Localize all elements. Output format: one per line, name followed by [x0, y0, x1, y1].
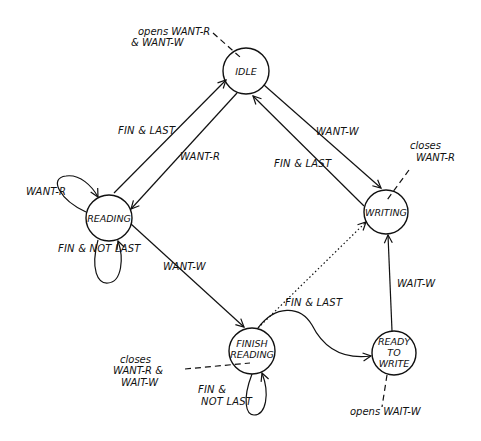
transition-idle-to-writing: WANT-W [264, 85, 381, 188]
state-label: WRITING [365, 207, 407, 218]
annotation-ready-to-write: opens WAIT-W [350, 375, 422, 417]
state-label-line2: TO [387, 347, 401, 358]
state-reading: READING [86, 195, 132, 241]
annotation-line3: WAIT-W [121, 377, 159, 388]
transition-idle-to-reading: WANT-R [131, 93, 237, 209]
transition-label: WANT-R [180, 151, 220, 162]
transition-label: FIN & NOT LAST [58, 243, 141, 254]
transition-label: WANT-W [316, 126, 360, 137]
transition-reading-self-fin-not-last: FIN & NOT LAST [58, 240, 141, 283]
transition-label-line1: FIN & [198, 384, 226, 395]
state-writing: WRITING [364, 190, 408, 234]
transition-reading-to-finish-reading: WANT-W [131, 224, 244, 327]
transition-reading-self-want-r: WANT-R [26, 176, 98, 212]
transition-label: FIN & LAST [285, 297, 343, 308]
transition-label: FIN & LAST [274, 158, 332, 169]
transition-label: WANT-R [26, 186, 66, 197]
transition-reading-to-idle: FIN & LAST [114, 80, 226, 193]
transition-writing-to-idle: FIN & LAST [253, 96, 364, 206]
transition-ready-to-write-to-writing: WAIT-W [388, 235, 436, 331]
transition-finish-reading-self: FIN & NOT LAST [198, 373, 266, 415]
state-label-line1: READY [378, 336, 411, 347]
state-finish-reading: FINISH READING [229, 328, 275, 374]
annotation-line1: closes [410, 140, 441, 151]
transition-label: WAIT-W [397, 278, 436, 289]
transition-label-line2: NOT LAST [201, 396, 253, 407]
state-ready-to-write: READY TO WRITE [372, 331, 416, 375]
annotation-line1: opens WANT-R [138, 26, 210, 37]
annotation-line2: WANT-R & [113, 365, 163, 376]
state-label-line2: READING [230, 349, 274, 360]
transition-label: WANT-W [163, 261, 207, 272]
state-idle: IDLE [223, 48, 269, 94]
annotation-line1: opens WAIT-W [350, 406, 422, 417]
transition-finish-reading-to-writing-dotted [258, 222, 366, 328]
annotation-idle: opens WANT-R & WANT-W [131, 26, 240, 57]
state-label-line3: WRITE [379, 358, 410, 369]
transition-label: FIN & LAST [118, 125, 176, 136]
state-label: READING [87, 213, 131, 224]
annotation-line2: & WANT-W [131, 37, 185, 48]
state-label: IDLE [235, 66, 256, 77]
state-label-line1: FINISH [236, 338, 267, 349]
annotation-writing: closes WANT-R [387, 140, 455, 200]
annotation-line1: closes [120, 354, 151, 365]
state-diagram: IDLE READING WRITING FINISH READING READ… [0, 0, 481, 441]
annotation-line2: WANT-R [416, 152, 455, 163]
